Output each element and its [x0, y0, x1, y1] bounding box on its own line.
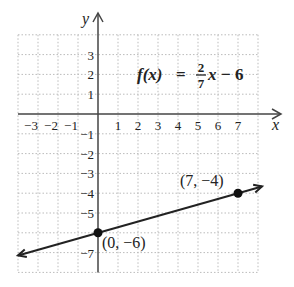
y-tick-label: −7	[80, 246, 94, 261]
x-tick-label: 4	[175, 118, 182, 133]
x-tick-label: −3	[24, 118, 38, 133]
x-tick-label: −1	[64, 118, 78, 133]
x-tick-label: 6	[215, 118, 222, 133]
formula-denominator: 7	[198, 76, 205, 91]
y-tick-label: 1	[88, 87, 95, 102]
y-tick-label: −5	[80, 206, 94, 221]
point-marker	[234, 189, 243, 198]
y-tick-label: −4	[80, 186, 94, 201]
x-axis-label: x	[271, 116, 279, 133]
function-graph: xy −3−2−11234567321−1−2−3−4−5−7 (0, −6)(…	[0, 0, 294, 287]
x-tick-label: 1	[115, 118, 122, 133]
point-label: (7, −4)	[180, 172, 224, 190]
x-tick-label: 5	[195, 118, 202, 133]
graph-canvas: xy −3−2−11234567321−1−2−3−4−5−7 (0, −6)(…	[0, 0, 294, 287]
formula-variable: x	[207, 65, 217, 84]
x-tick-label: 7	[235, 118, 242, 133]
x-tick-label: 2	[135, 118, 142, 133]
function-formula: f(x) = 2 7 x − 6	[137, 60, 243, 91]
point-label: (0, −6)	[102, 234, 146, 252]
y-tick-label: −2	[80, 147, 94, 162]
y-axis-label: y	[80, 10, 90, 28]
y-tick-label: 2	[88, 67, 95, 82]
y-tick-label: −1	[80, 127, 94, 142]
x-tick-label: −2	[44, 118, 58, 133]
y-tick-label: −3	[80, 166, 94, 181]
x-tick-label: 3	[155, 118, 162, 133]
formula-numerator: 2	[198, 60, 205, 75]
formula-rest: − 6	[221, 65, 243, 84]
formula-name: f(x)	[137, 65, 162, 84]
formula-equals: =	[176, 65, 186, 84]
y-tick-label: 3	[88, 48, 95, 63]
